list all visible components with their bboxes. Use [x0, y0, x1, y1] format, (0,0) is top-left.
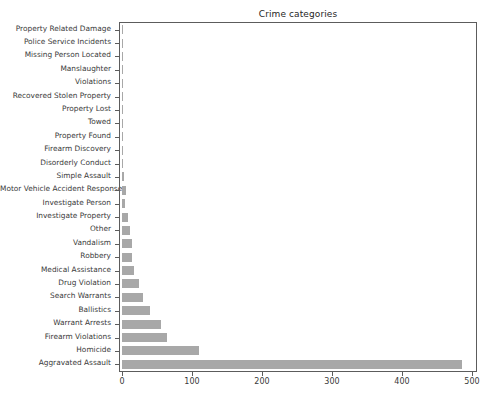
y-tick-label: Firearm Violations	[0, 333, 114, 341]
y-tick-mark	[115, 164, 119, 165]
y-tick-mark	[115, 204, 119, 205]
y-tick-label: Firearm Discovery	[0, 145, 114, 153]
y-tick-mark	[115, 257, 119, 258]
bar-row	[120, 210, 476, 224]
bar-row	[120, 157, 476, 171]
y-tick-label: Violations	[0, 78, 114, 86]
y-tick-mark	[115, 56, 119, 57]
y-tick-mark	[115, 83, 119, 84]
bar	[122, 79, 123, 88]
bar-row	[120, 23, 476, 37]
x-tick-mark	[122, 372, 123, 376]
y-tick-label: Simple Assault	[0, 172, 114, 180]
y-tick-mark	[115, 190, 119, 191]
bar	[122, 39, 123, 48]
x-tick-label: 400	[394, 377, 409, 387]
bar	[122, 199, 125, 208]
y-tick-label: Police Service Incidents	[0, 38, 114, 46]
x-tick-label: 200	[254, 377, 269, 387]
y-tick-mark	[115, 230, 119, 231]
y-tick-label: Drug Violation	[0, 279, 114, 287]
y-tick-mark	[115, 338, 119, 339]
y-tick-label: Towed	[0, 118, 114, 126]
y-tick-mark	[115, 364, 119, 365]
y-tick-label: Search Warrants	[0, 292, 114, 300]
bar	[122, 320, 161, 329]
bar	[122, 186, 126, 195]
bar	[122, 293, 143, 302]
y-tick-label: Robbery	[0, 252, 114, 260]
y-tick-label: Medical Assistance	[0, 266, 114, 274]
bar-row	[120, 103, 476, 117]
chart-title: Crime categories	[119, 8, 477, 20]
x-tick-mark	[472, 372, 473, 376]
x-tick-mark	[402, 372, 403, 376]
x-tick-label: 100	[184, 377, 199, 387]
y-tick-mark	[115, 311, 119, 312]
y-tick-mark	[115, 150, 119, 151]
bar-row	[120, 251, 476, 265]
y-tick-mark	[115, 43, 119, 44]
bar	[122, 146, 123, 155]
bar	[122, 266, 134, 275]
x-tick-mark	[332, 372, 333, 376]
bar	[122, 105, 123, 114]
bar-row	[120, 77, 476, 91]
bar	[122, 306, 150, 315]
y-tick-mark	[115, 284, 119, 285]
y-tick-mark	[115, 217, 119, 218]
bar-row	[120, 197, 476, 211]
bar	[122, 279, 139, 288]
bar-row	[120, 130, 476, 144]
bar	[122, 239, 132, 248]
bar	[122, 172, 124, 181]
bar-row	[120, 50, 476, 64]
y-tick-mark	[115, 351, 119, 352]
y-tick-label: Missing Person Located	[0, 51, 114, 59]
y-tick-mark	[115, 137, 119, 138]
y-tick-label: Investigate Property	[0, 212, 114, 220]
bar-row	[120, 291, 476, 305]
bar-row	[120, 264, 476, 278]
y-tick-label: Recovered Stolen Property	[0, 92, 114, 100]
bar	[122, 159, 123, 168]
y-tick-label: Disorderly Conduct	[0, 159, 114, 167]
y-tick-label: Property Lost	[0, 105, 114, 113]
y-tick-label: Aggravated Assault	[0, 359, 114, 367]
x-tick-mark	[262, 372, 263, 376]
bar-row	[120, 317, 476, 331]
bar	[122, 52, 123, 61]
y-tick-mark	[115, 324, 119, 325]
x-tick-label: 500	[464, 377, 479, 387]
x-tick-label: 0	[119, 377, 124, 387]
bar	[122, 119, 123, 128]
bar	[122, 65, 123, 74]
y-tick-label: Other	[0, 225, 114, 233]
bar	[122, 132, 123, 141]
y-tick-mark	[115, 244, 119, 245]
bar-row	[120, 358, 476, 371]
bar-row	[120, 224, 476, 238]
bar-row	[120, 117, 476, 131]
y-tick-label: Warrant Arrests	[0, 319, 114, 327]
bar-row	[120, 90, 476, 104]
y-axis-tick-labels: Property Related DamagePolice Service In…	[0, 22, 114, 372]
y-tick-label: Ballistics	[0, 306, 114, 314]
bar-row	[120, 170, 476, 184]
y-tick-mark	[115, 110, 119, 111]
bar	[122, 333, 167, 342]
bar	[122, 253, 132, 262]
y-tick-mark	[115, 30, 119, 31]
x-tick-label: 300	[324, 377, 339, 387]
x-tick-mark	[192, 372, 193, 376]
bar-row	[120, 184, 476, 198]
y-tick-label: Homicide	[0, 346, 114, 354]
y-tick-label: Motor Vehicle Accident Response	[0, 185, 114, 193]
y-tick-mark	[115, 271, 119, 272]
y-tick-mark	[115, 123, 119, 124]
bar	[122, 213, 128, 222]
bar-row	[120, 143, 476, 157]
y-tick-mark	[115, 70, 119, 71]
bar	[122, 346, 199, 355]
y-tick-mark	[115, 177, 119, 178]
